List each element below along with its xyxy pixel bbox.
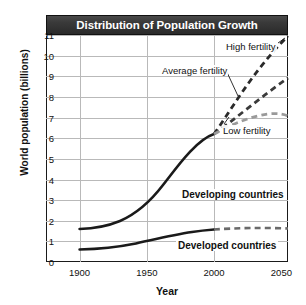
gridline-x-1950: [147, 35, 148, 262]
gridline-x-1900: [80, 35, 81, 262]
population-growth-chart: Distribution of Population Growth 11 10 …: [0, 0, 306, 305]
gridline-y-4: [46, 180, 288, 181]
xtick-2050: 2050: [261, 267, 301, 278]
ytick-2: 2: [34, 217, 54, 227]
gridline-y-9: [46, 76, 288, 77]
annotation-high-fertility: High fertility: [225, 41, 277, 52]
gridline-y-7: [46, 118, 288, 119]
annotation-developing-countries: Developing countries: [180, 189, 286, 200]
ytick-11: 11: [34, 31, 54, 41]
x-axis-label: Year: [46, 285, 288, 297]
ytick-8: 8: [34, 93, 54, 103]
annotation-developed-countries: Developed countries: [176, 240, 278, 251]
ytick-0: 0: [34, 258, 54, 268]
gridline-y-2: [46, 221, 288, 222]
ytick-3: 3: [34, 196, 54, 206]
ytick-9: 9: [34, 72, 54, 82]
chart-title: Distribution of Population Growth: [76, 19, 257, 31]
ytick-7: 7: [34, 114, 54, 124]
gridline-y-6: [46, 138, 288, 139]
chart-title-bar: Distribution of Population Growth: [46, 15, 288, 35]
xtick-2000: 2000: [194, 267, 234, 278]
ytick-6: 6: [34, 134, 54, 144]
gridline-y-5: [46, 159, 288, 160]
gridline-y-10: [46, 56, 288, 57]
ytick-1: 1: [34, 237, 54, 247]
y-axis-label: World population (billions): [19, 43, 30, 183]
ytick-5: 5: [34, 155, 54, 165]
xtick-1900: 1900: [60, 267, 100, 278]
ytick-4: 4: [34, 176, 54, 186]
gridline-y-3: [46, 200, 288, 201]
gridline-y-11: [46, 35, 288, 36]
annotation-low-fertility: Low fertility: [222, 125, 272, 136]
ytick-10: 10: [34, 52, 54, 62]
xtick-1950: 1950: [127, 267, 167, 278]
gridline-y-8: [46, 97, 288, 98]
annotation-average-fertility: Average fertility: [161, 65, 228, 76]
